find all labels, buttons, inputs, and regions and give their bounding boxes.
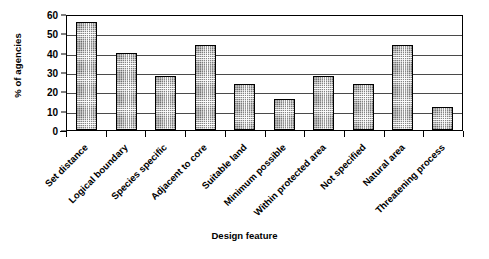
bar (116, 53, 137, 130)
bar-slot (146, 16, 186, 130)
x-axis-title: Design feature (0, 230, 489, 241)
y-tick-label: 20 (47, 87, 58, 98)
y-tick-label: 10 (47, 106, 58, 117)
y-tick-label: 60 (47, 10, 58, 21)
y-axis-title-text: % of agencies (12, 33, 23, 98)
bar-series (67, 16, 462, 130)
y-axis-title: % of agencies (6, 0, 28, 131)
bar (195, 45, 216, 130)
bar (392, 45, 413, 130)
y-tick-label: 50 (47, 29, 58, 40)
bar (313, 76, 334, 130)
y-tick-label: 30 (47, 68, 58, 79)
bar-slot (67, 16, 107, 130)
bar (353, 84, 374, 130)
bar-slot (304, 16, 344, 130)
bar (155, 76, 176, 130)
bar-slot (225, 16, 265, 130)
y-axis-ticks: 0102030405060 (30, 8, 62, 131)
bar (76, 22, 97, 130)
x-category-label: Threatening process (298, 142, 447, 259)
bar (274, 99, 295, 130)
plot-area (66, 15, 463, 131)
bar-slot (423, 16, 463, 130)
y-tick-label: 40 (47, 48, 58, 59)
bar-slot (107, 16, 147, 130)
bar-slot (186, 16, 226, 130)
x-axis-category-labels: Set distanceLogical boundarySpecies spec… (0, 131, 489, 226)
bar (432, 107, 453, 130)
bar (234, 84, 255, 130)
bar-chart: % of agencies 0102030405060 Set distance… (0, 0, 489, 259)
bar-slot (344, 16, 384, 130)
bar-slot (383, 16, 423, 130)
bar-slot (265, 16, 305, 130)
